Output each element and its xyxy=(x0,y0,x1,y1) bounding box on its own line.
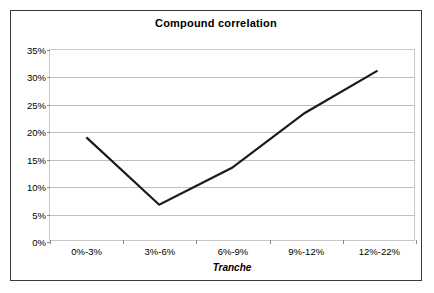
x-axis-tick-mark xyxy=(343,240,344,244)
x-axis-tick-mark xyxy=(50,240,51,244)
y-axis-tick-label: 5% xyxy=(32,209,46,220)
x-axis-tick-label: 9%-12% xyxy=(288,246,324,257)
chart-title: Compound correlation xyxy=(11,17,421,29)
y-axis-tick-label: 10% xyxy=(27,182,46,193)
x-axis-label: Tranche xyxy=(50,262,414,273)
y-axis-tick-label: 35% xyxy=(27,45,46,56)
x-axis-tick-label: 3%-6% xyxy=(144,246,175,257)
data-series-line xyxy=(50,50,414,240)
x-axis-tick-mark xyxy=(270,240,271,244)
series-polyline xyxy=(86,71,377,205)
x-axis-tick-mark xyxy=(123,240,124,244)
x-axis-tick-label: 6%-9% xyxy=(218,246,249,257)
x-axis-tick-label: 12%-22% xyxy=(359,246,400,257)
plot-area: 0%5%10%15%20%25%30%35% 0%-3%3%-6%6%-9%9%… xyxy=(49,49,415,241)
x-axis-tick-label: 0%-3% xyxy=(71,246,102,257)
chart-frame: Compound correlation 0%5%10%15%20%25%30%… xyxy=(10,10,422,281)
y-axis-tick-label: 30% xyxy=(27,72,46,83)
x-axis-tick-mark xyxy=(196,240,197,244)
y-axis-tick-label: 0% xyxy=(32,237,46,248)
y-axis-tick-label: 20% xyxy=(27,127,46,138)
x-axis-tick-mark xyxy=(416,240,417,244)
y-axis-tick-label: 25% xyxy=(27,99,46,110)
y-axis-tick-label: 15% xyxy=(27,154,46,165)
